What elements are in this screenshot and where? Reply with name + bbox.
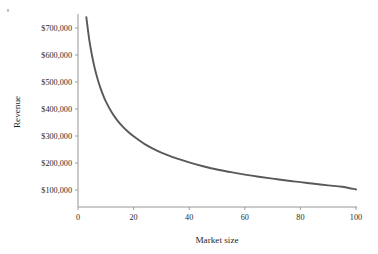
revenue-curve — [86, 17, 356, 189]
y-tick-label: $600,000 — [41, 51, 72, 60]
y-axis: $100,000$200,000$300,000$400,000$500,000… — [41, 14, 78, 207]
y-axis-tick-labels: $100,000$200,000$300,000$400,000$500,000… — [41, 24, 72, 195]
x-axis: 020406080100 — [76, 207, 362, 222]
y-tick-label: $300,000 — [41, 132, 72, 141]
y-tick-label: $100,000 — [41, 186, 72, 195]
y-tick-label: $400,000 — [41, 105, 72, 114]
x-axis-title: Market size — [195, 235, 238, 245]
x-tick-label: 40 — [185, 213, 193, 222]
x-tick-label: 80 — [296, 213, 304, 222]
x-tick-label: 0 — [76, 213, 80, 222]
x-tick-label: 20 — [130, 213, 138, 222]
chart-container: $100,000$200,000$300,000$400,000$500,000… — [0, 0, 378, 254]
x-axis-tick-labels: 020406080100 — [76, 213, 362, 222]
x-tick-label: 60 — [241, 213, 249, 222]
x-tick-label: 100 — [350, 213, 362, 222]
y-tick-label: $500,000 — [41, 78, 72, 87]
revenue-vs-market-size-chart: $100,000$200,000$300,000$400,000$500,000… — [0, 0, 378, 254]
y-tick-label: $700,000 — [41, 24, 72, 33]
y-axis-title: Revenue — [12, 96, 22, 128]
y-tick-label: $200,000 — [41, 159, 72, 168]
